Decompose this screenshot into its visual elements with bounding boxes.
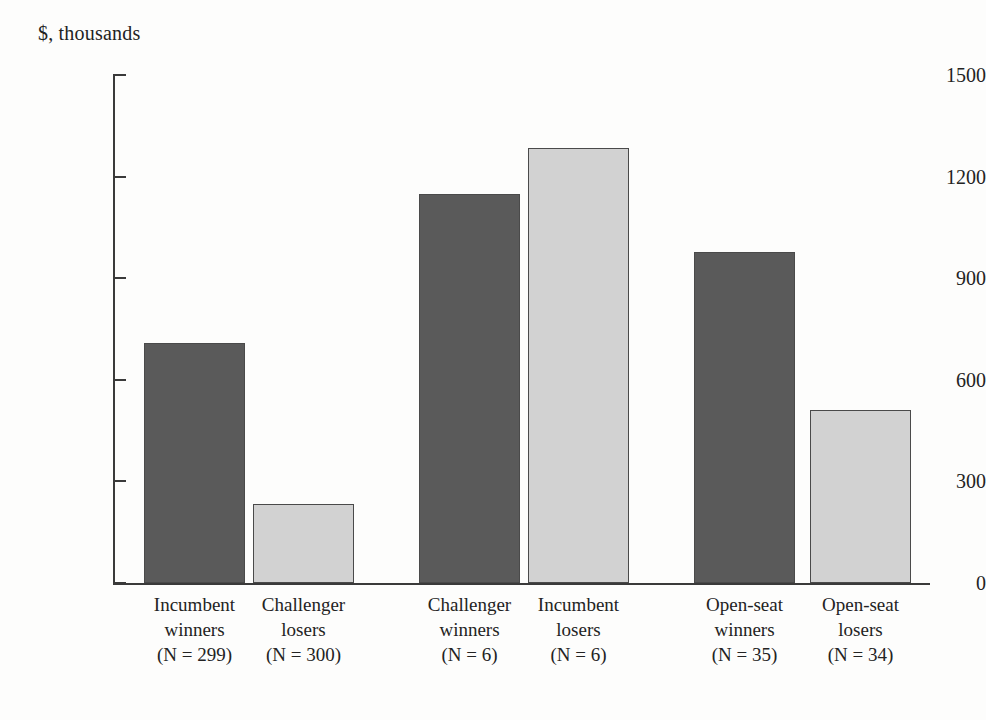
category-label: Incumbentwinners(N = 299) — [132, 592, 257, 667]
category-name-line: losers — [241, 617, 366, 642]
category-sample-size: (N = 6) — [407, 642, 532, 667]
category-name-line: losers — [798, 617, 923, 642]
category-sample-size: (N = 6) — [516, 642, 641, 667]
category-name-line: Incumbent — [132, 592, 257, 617]
bar-challenger-winners — [419, 194, 520, 583]
bar-incumbent-losers — [528, 148, 629, 583]
category-name-line: winners — [132, 617, 257, 642]
category-name-line: Challenger — [241, 592, 366, 617]
category-name-line: winners — [407, 617, 532, 642]
category-sample-size: (N = 34) — [798, 642, 923, 667]
bar-incumbent-winners — [144, 343, 245, 583]
x-axis-line — [113, 583, 930, 585]
category-name-line: Incumbent — [516, 592, 641, 617]
bars-layer — [113, 75, 930, 583]
category-name-line: Challenger — [407, 592, 532, 617]
category-name-line: Open-seat — [798, 592, 923, 617]
category-name-line: Open-seat — [682, 592, 807, 617]
y-axis-unit-label: $, thousands — [38, 22, 140, 45]
bar-chart: $, thousands 030060090012001500 Incumben… — [0, 0, 986, 720]
category-sample-size: (N = 35) — [682, 642, 807, 667]
category-sample-size: (N = 299) — [132, 642, 257, 667]
bar-open-seat-losers — [810, 410, 911, 583]
category-label: Open-seatlosers(N = 34) — [798, 592, 923, 667]
category-name-line: losers — [516, 617, 641, 642]
bar-open-seat-winners — [694, 252, 795, 583]
category-label: Open-seatwinners(N = 35) — [682, 592, 807, 667]
bar-challenger-losers — [253, 504, 354, 583]
category-label: Incumbentlosers(N = 6) — [516, 592, 641, 667]
category-label: Challengerlosers(N = 300) — [241, 592, 366, 667]
category-sample-size: (N = 300) — [241, 642, 366, 667]
category-label: Challengerwinners(N = 6) — [407, 592, 532, 667]
category-name-line: winners — [682, 617, 807, 642]
